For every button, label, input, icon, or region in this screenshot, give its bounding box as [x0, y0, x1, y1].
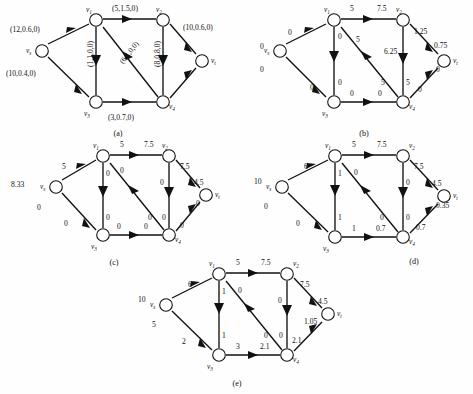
node-v3	[329, 231, 342, 244]
edge-label-v1-v2-tail: 5	[120, 140, 124, 149]
node-v4	[157, 96, 170, 109]
panel-e-caption: (e)	[232, 379, 241, 388]
edge-s-v1	[286, 24, 326, 44]
edge-label-v4-t-head: 0	[196, 199, 200, 208]
edge-label-v1-v3: (1,1,0,0)	[86, 41, 95, 67]
node-label-s: vs	[264, 46, 269, 56]
edge-v4-t	[170, 68, 196, 98]
edge-v3-v4	[226, 351, 280, 359]
edge-s-v3	[48, 57, 89, 97]
edge-label-v2-v4-head: 0	[406, 213, 410, 222]
node-label-v3: v3	[84, 109, 90, 119]
node-v2	[397, 150, 410, 163]
node-label-v3: v3	[322, 109, 328, 119]
edge-label-s-v3-tail: 0	[264, 202, 268, 211]
node-v1	[328, 14, 341, 27]
panel-b-graph: vs v1 v2 v3 v4 vt 0 0 0 0 5 7.5 0 0 5 5 …	[246, 2, 472, 140]
edge-label-v1-v3-head: 1	[222, 331, 226, 340]
edge-label-v3-v4: (3,0.7,0)	[108, 113, 134, 122]
node-t	[322, 308, 335, 321]
edge-label-v4-v1-head: 0	[354, 168, 358, 177]
node-s	[274, 45, 287, 58]
edge-label-v1-v2-tail: 5	[352, 140, 356, 149]
node-label-v4: v4	[409, 237, 415, 247]
node-v2	[281, 268, 294, 281]
edge-label-s-v3-tail: 0	[37, 203, 41, 212]
node-label-v4: v4	[175, 235, 181, 245]
node-label-t: vt	[453, 191, 458, 201]
edge-label-v2-t-tail: 7.5	[300, 280, 310, 289]
node-label-v3: v3	[207, 362, 213, 372]
edge-label-s-v3-head: 0	[310, 83, 314, 92]
edge-label-v1-v3-tail: 1	[338, 169, 342, 178]
edge-label-v4-t-tail: 0	[418, 85, 422, 94]
node-label-v2: v2	[409, 141, 415, 151]
edge-v4-v1	[342, 163, 398, 232]
panel-c-caption: (c)	[109, 258, 118, 267]
panel-a-graph: vs v1 v2 v3 v4 vt (12,0.6,0) (10,0.4,0) …	[4, 2, 232, 140]
node-label-v1: v1	[93, 141, 99, 151]
node-v3	[328, 96, 341, 109]
edge-label-v2-v4-tail: 0	[160, 178, 164, 187]
edge-label-v2-t-tail: 1.25	[414, 27, 427, 36]
node-v1	[213, 268, 226, 281]
edge-s-v1	[48, 24, 89, 44]
edge-label-v4-t-tail: 0.7	[416, 223, 426, 232]
edge-label-s-v3: (10,0.4,0)	[6, 69, 36, 78]
panel-b: vs v1 v2 v3 v4 vt 0 0 0 0 5 7.5 0 0 5 5 …	[246, 2, 472, 140]
edge-v1-v2	[110, 151, 162, 159]
node-label-t: vt	[215, 190, 220, 200]
edge-label-v1-v2: (5,1.5,0)	[112, 4, 138, 13]
node-v3	[97, 229, 110, 242]
edge-label-s-v3-tail: 5	[152, 320, 156, 329]
edge-s-v3	[286, 57, 326, 97]
edge-label-v2-t-head: 4.5	[318, 297, 328, 306]
edge-label-v2-t-tail: 7.5	[180, 162, 190, 171]
edge-label-v4-v1-head: 5	[356, 35, 360, 44]
edge-label-v1-v2-head: 7.5	[377, 140, 387, 149]
edge-v1-v2	[226, 269, 280, 277]
node-label-t: vt	[337, 309, 342, 319]
edge-label-v4-t-head: 1.05	[304, 317, 317, 326]
node-v4	[163, 229, 176, 242]
edge-label-v4-v1-tail: 5	[381, 78, 385, 87]
edge-label-v1-v2-head: 7.5	[261, 258, 271, 267]
edge-label-v3-v4-tail: 1	[352, 224, 356, 233]
edge-label-v2-t-head: 0.75	[434, 41, 447, 50]
node-label-s: vs	[26, 46, 31, 56]
node-label-s: vs	[266, 182, 271, 192]
edge-label-v2-v4-head: 0	[162, 213, 166, 222]
edge-label-v4-v1-head: 0	[120, 166, 124, 175]
panel-e-graph: vs v1 v2 v3 v4 vt 10 6 5 2 5 7.5 1 1 0 0…	[122, 258, 362, 392]
edge-label-v2-v4-tail: 0	[406, 178, 410, 187]
edge-label-s-v1-tail: 8.33	[11, 180, 24, 189]
edge-v4-t	[410, 68, 438, 98]
panel-d-graph: vs v1 v2 v3 v4 vt 10 6 0 0 5 7.5 1 1 0 0…	[246, 140, 472, 272]
edge-s-v3	[172, 311, 212, 350]
edge-label-v1-v2-tail: 5	[236, 258, 240, 267]
edge-v1-v2	[103, 15, 156, 23]
edge-label-v3-v4-tail: 0	[350, 89, 354, 98]
edge-label-s-v1-tail: 10	[138, 295, 146, 304]
node-v4	[281, 349, 294, 362]
edge-v4-v1	[226, 281, 282, 350]
edge-label-v1-v2-head: 7.5	[377, 4, 387, 13]
figure-page: vs v1 v2 v3 v4 vt (12,0.6,0) (10,0.4,0) …	[0, 0, 473, 394]
edge-s-v1	[288, 160, 328, 180]
edge-v3-v4	[342, 233, 396, 241]
panel-c: vs v1 v2 v3 v4 vt 8.33 5 0 0 5 7.5 0 0 0…	[4, 140, 232, 272]
edge-label-v4-t-head: 0.35	[436, 201, 449, 210]
node-label-v2: v2	[156, 5, 162, 15]
node-v2	[163, 150, 176, 163]
edge-label-v3-v4-tail: 3	[236, 342, 240, 351]
edge-label-v2-v4-head: 0	[279, 331, 283, 340]
node-s	[50, 181, 63, 194]
node-label-s: vs	[150, 300, 155, 310]
node-v3	[213, 349, 226, 362]
node-label-v1: v1	[325, 141, 331, 151]
node-label-v4: v4	[293, 355, 299, 365]
edge-label-s-v3-head: 2	[182, 337, 186, 346]
panel-a: vs v1 v2 v3 v4 vt (12,0.6,0) (10,0.4,0) …	[4, 2, 232, 140]
edge-label-v4-v1-head: 0	[238, 286, 242, 295]
edge-v1-v2	[341, 15, 396, 23]
